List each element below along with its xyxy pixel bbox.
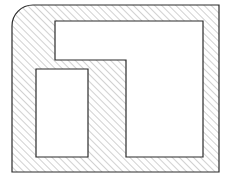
- technical-drawing-svg: [0, 0, 229, 181]
- figure-container: [0, 0, 229, 181]
- small-rect-cutout-outline: [36, 69, 88, 157]
